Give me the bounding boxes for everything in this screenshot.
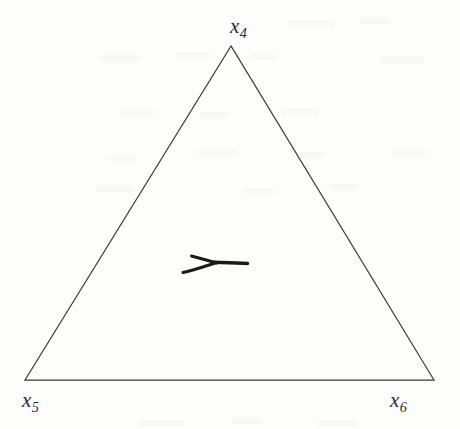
vertex-label-bottom-right-subscript: 6 (400, 399, 407, 415)
vertex-label-bottom-left-base: x (22, 388, 31, 412)
vertex-label-apex-base: x (230, 14, 239, 38)
vertex-label-apex-subscript: 4 (240, 25, 247, 41)
vertex-label-bottom-left-subscript: 5 (32, 399, 39, 415)
figure-background (0, 0, 460, 429)
vertex-label-bottom-left: x5 (22, 390, 39, 414)
simplex-figure: x4 x5 x6 (0, 0, 460, 429)
figure-canvas (0, 0, 460, 429)
trajectory-right-stroke (214, 262, 248, 263)
vertex-label-bottom-right: x6 (390, 390, 407, 414)
vertex-label-bottom-right-base: x (390, 388, 399, 412)
vertex-label-apex: x4 (230, 16, 247, 40)
